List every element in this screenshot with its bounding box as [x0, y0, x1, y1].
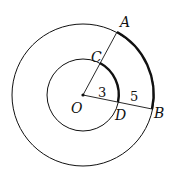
label-D: D [114, 107, 126, 123]
label-B: B [153, 105, 164, 121]
label-A: A [118, 14, 130, 30]
concentric-circles-diagram: O A B C D 3 5 [0, 0, 172, 175]
center-point-O [81, 93, 84, 96]
label-length-DB: 5 [130, 89, 138, 104]
label-C: C [91, 49, 102, 65]
label-length-OD: 3 [98, 85, 106, 100]
diagram-canvas: O A B C D 3 5 [0, 0, 172, 175]
label-O: O [71, 100, 83, 116]
